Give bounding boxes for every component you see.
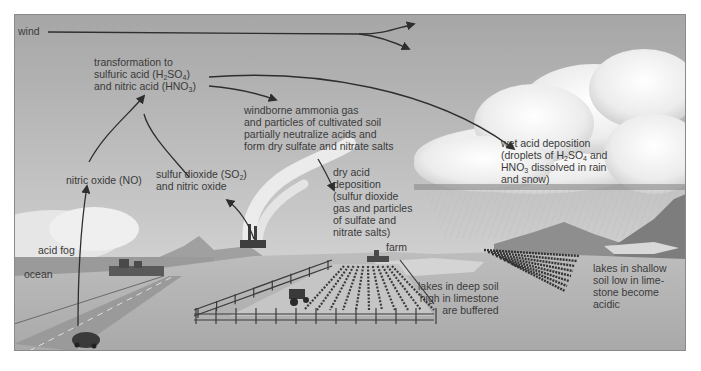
label-line: stone become	[593, 286, 667, 298]
label-line: (sulfur dioxide	[333, 190, 412, 202]
label-ocean: ocean	[24, 268, 53, 280]
text: dissolved in rain	[528, 161, 606, 173]
label-line: and particles of cultivated soil	[244, 116, 393, 128]
label-wind: wind	[18, 25, 40, 37]
label-line: of sulfate and	[333, 214, 412, 226]
text: )	[192, 80, 196, 92]
label-line: (droplets of H2SO4 and	[501, 149, 607, 161]
label-nitric-oxide: nitric oxide (NO)	[66, 174, 142, 186]
text: and nitric acid (HNO	[94, 80, 189, 92]
text: SO	[167, 68, 182, 80]
label-line: nitrate salts)	[333, 226, 412, 238]
label-line: and snow)	[501, 173, 607, 185]
label-line: sulfur dioxide (SO2)	[156, 168, 247, 180]
label-acid-fog: acid fog	[38, 244, 75, 256]
label-line: dry acid	[333, 166, 412, 178]
label-windborne: windborne ammonia gas and particles of c…	[244, 104, 393, 152]
label-line: and nitric oxide	[156, 180, 247, 192]
text: )	[186, 68, 190, 80]
text: SO	[568, 149, 583, 161]
label-line: high in limestone	[418, 292, 499, 304]
text: sulfuric acid (H	[94, 68, 163, 80]
acid-deposition-diagram: wind transformation to sulfuric acid (H2…	[14, 14, 686, 351]
label-line: windborne ammonia gas	[244, 104, 393, 116]
label-lakes-deep-soil: lakes in deep soil high in limestone are…	[418, 280, 499, 316]
label-transformation: transformation to sulfuric acid (H2SO4) …	[94, 56, 196, 92]
label-line: and nitric acid (HNO3)	[94, 80, 196, 92]
text: and	[587, 149, 607, 161]
label-line: sulfuric acid (H2SO4)	[94, 68, 196, 80]
label-line: lakes in deep soil	[418, 280, 499, 292]
label-line: HNO3 dissolved in rain	[501, 161, 607, 173]
label-line: acidic	[593, 298, 667, 310]
text: HNO	[501, 161, 524, 173]
label-dry-deposition: dry acid deposition (sulfur dioxide gas …	[333, 166, 412, 238]
text: (droplets of H	[501, 149, 564, 161]
label-sulfur-dioxide: sulfur dioxide (SO2) and nitric oxide	[156, 168, 247, 192]
label-line: gas and particles	[333, 202, 412, 214]
car	[72, 332, 100, 349]
label-line: form dry sulfate and nitrate salts	[244, 140, 393, 152]
label-line: deposition	[333, 178, 412, 190]
label-lakes-shallow-soil: lakes in shallow soil low in lime- stone…	[593, 262, 667, 310]
label-line: lakes in shallow	[593, 262, 667, 274]
text: )	[243, 168, 247, 180]
text: sulfur dioxide (SO	[156, 168, 239, 180]
label-line: soil low in lime-	[593, 274, 667, 286]
label-farm: farm	[386, 241, 407, 253]
label-line: partially neutralize acids and	[244, 128, 393, 140]
label-line: are buffered	[418, 304, 499, 316]
label-line: wet acid deposition	[501, 137, 607, 149]
label-wet-deposition: wet acid deposition (droplets of H2SO4 a…	[501, 137, 607, 185]
label-line: transformation to	[94, 56, 196, 68]
